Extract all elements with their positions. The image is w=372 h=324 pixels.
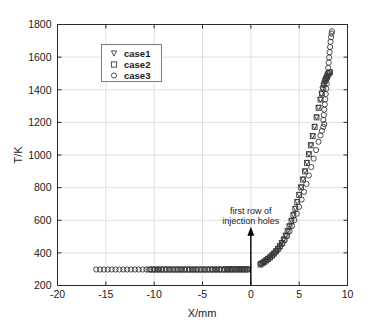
x-axis-title: X/mm (188, 307, 217, 319)
y-tick-label: 800 (34, 181, 52, 193)
chart-svg: -20-15-10-505102004006008001000120014001… (0, 0, 372, 324)
x-tick-label: 5 (296, 288, 302, 300)
y-tick-label: 1600 (28, 51, 52, 63)
legend-label-case1: case1 (124, 48, 151, 59)
annotation-text-line2: injection holes (222, 216, 280, 226)
y-tick-label: 200 (34, 279, 52, 291)
x-tick-label: -15 (98, 288, 113, 300)
x-tick-label: -5 (198, 288, 207, 300)
chart-figure: -20-15-10-505102004006008001000120014001… (0, 0, 372, 324)
x-tick-label: -10 (147, 288, 162, 300)
x-tick-label: 10 (342, 288, 354, 300)
legend-label-case3: case3 (124, 70, 150, 81)
y-tick-label: 1800 (28, 18, 52, 30)
y-tick-label: 600 (34, 214, 52, 226)
y-tick-label: 400 (34, 247, 52, 259)
x-tick-label: -20 (50, 288, 65, 300)
x-tick-label: 0 (248, 288, 254, 300)
y-tick-label: 1000 (28, 149, 52, 161)
legend[interactable]: case1case2case3 (102, 45, 162, 82)
annotation-text-line1: first row of (230, 206, 272, 216)
y-axis-title: T/K (12, 146, 24, 164)
y-tick-label: 1400 (28, 84, 52, 96)
y-tick-label: 1200 (28, 116, 52, 128)
legend-label-case2: case2 (124, 59, 150, 70)
chart-background (0, 0, 372, 324)
